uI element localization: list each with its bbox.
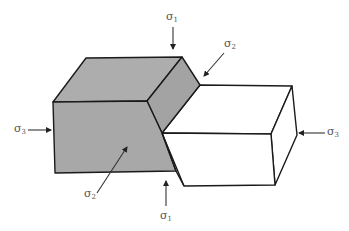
sigma2-top-right-label: σ2 (224, 38, 236, 51)
subscript: 2 (232, 43, 236, 51)
sigma-symbol: σ (14, 122, 22, 135)
subscript: 2 (92, 193, 96, 201)
subscript: 3 (335, 131, 339, 139)
sigma-symbol: σ (224, 37, 232, 50)
sigma-symbol: σ (166, 10, 174, 23)
sigma-symbol: σ (84, 187, 92, 200)
sigma1-top-label: σ1 (166, 11, 178, 24)
unshaded-block-front-face (162, 133, 275, 186)
sigma-symbol: σ (327, 125, 335, 138)
sigma-symbol: σ (160, 209, 168, 222)
sigma3-left-label: σ3 (14, 123, 26, 136)
subscript: 3 (22, 128, 26, 136)
fault-block-diagram (0, 0, 349, 231)
sigma1-bottom-label: σ1 (160, 210, 172, 223)
subscript: 1 (174, 16, 178, 24)
subscript: 1 (168, 215, 172, 223)
sigma3-right-label: σ3 (327, 126, 339, 139)
sigma2-bottom-left-label: σ2 (84, 188, 96, 201)
sigma2-top-right-arrow (204, 53, 224, 76)
